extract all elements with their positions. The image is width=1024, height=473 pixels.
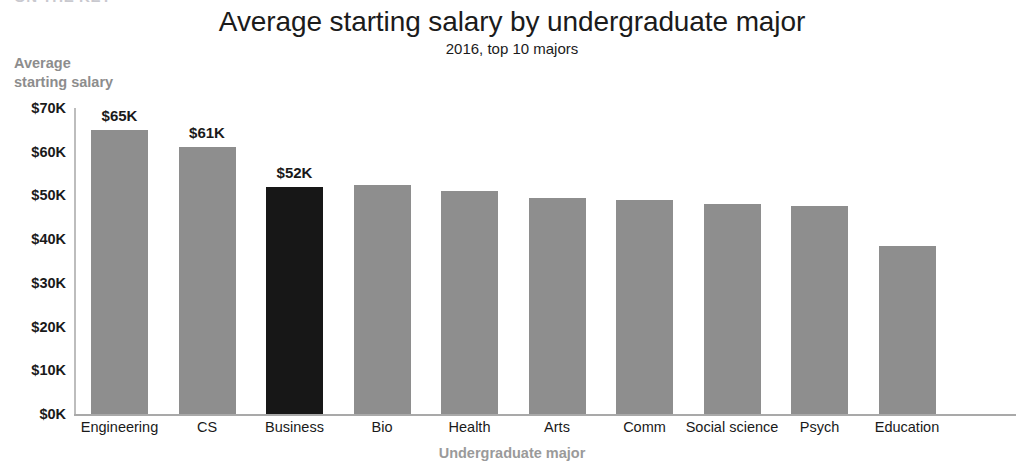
x-axis-title: Undergraduate major xyxy=(0,445,1024,461)
y-axis-title-line-1: Average xyxy=(14,54,164,73)
y-tick-label: $60K xyxy=(0,144,66,160)
x-tick-label: Comm xyxy=(623,419,666,435)
bar-value-label: $52K xyxy=(252,164,337,181)
y-tick-label: $10K xyxy=(0,362,66,378)
x-tick-label: Education xyxy=(875,419,940,435)
bar[interactable] xyxy=(266,187,323,414)
x-tick-label: Health xyxy=(449,419,491,435)
y-axis-title: Average starting salary xyxy=(14,54,164,92)
bar-slot xyxy=(529,108,586,414)
y-tick-label: $30K xyxy=(0,275,66,291)
y-axis-tick-labels: $0K$10K$20K$30K$40K$50K$60K$70K xyxy=(0,108,66,416)
x-tick-label: Business xyxy=(265,419,324,435)
bar[interactable] xyxy=(791,206,848,414)
x-axis-tick-labels: EngineeringCSBusinessBioHealthArtsCommSo… xyxy=(74,419,1016,441)
y-tick-label: $50K xyxy=(0,187,66,203)
x-axis-line xyxy=(74,414,1016,416)
y-tick-label: $70K xyxy=(0,100,66,116)
bar-slot xyxy=(616,108,673,414)
bar-slot xyxy=(791,108,848,414)
plot-area: $65K$61K$52K xyxy=(74,108,1016,416)
bar[interactable] xyxy=(704,204,761,414)
bar[interactable] xyxy=(179,147,236,414)
x-tick-label: Arts xyxy=(544,419,570,435)
bar[interactable] xyxy=(616,200,673,414)
x-tick-label: Psych xyxy=(800,419,840,435)
y-tick-label: $20K xyxy=(0,319,66,335)
bar[interactable] xyxy=(879,246,936,414)
bar-slot xyxy=(704,108,761,414)
x-tick-label: Social science xyxy=(686,419,779,435)
chart-title: Average starting salary by undergraduate… xyxy=(0,6,1024,38)
bar-value-label: $65K xyxy=(77,107,162,124)
bar[interactable] xyxy=(354,185,411,415)
bar-slot xyxy=(441,108,498,414)
clipped-page-header-text: ON THE KEY xyxy=(14,0,244,4)
bar[interactable] xyxy=(441,191,498,414)
bar-slot: $65K xyxy=(91,108,148,414)
bar[interactable] xyxy=(529,198,586,414)
y-axis-title-line-2: starting salary xyxy=(14,73,164,92)
x-tick-label: Engineering xyxy=(81,419,158,435)
x-tick-label: CS xyxy=(197,419,217,435)
bar-value-label: $61K xyxy=(165,124,250,141)
bar[interactable] xyxy=(91,130,148,414)
y-tick-label: $40K xyxy=(0,231,66,247)
bar-slot xyxy=(354,108,411,414)
bar-slot: $61K xyxy=(179,108,236,414)
x-tick-label: Bio xyxy=(372,419,393,435)
bar-slot xyxy=(879,108,936,414)
clipped-page-header: ON THE KEY xyxy=(14,0,244,5)
bar-slot: $52K xyxy=(266,108,323,414)
bar-series: $65K$61K$52K xyxy=(74,108,1016,414)
y-tick-label: $0K xyxy=(0,406,66,422)
